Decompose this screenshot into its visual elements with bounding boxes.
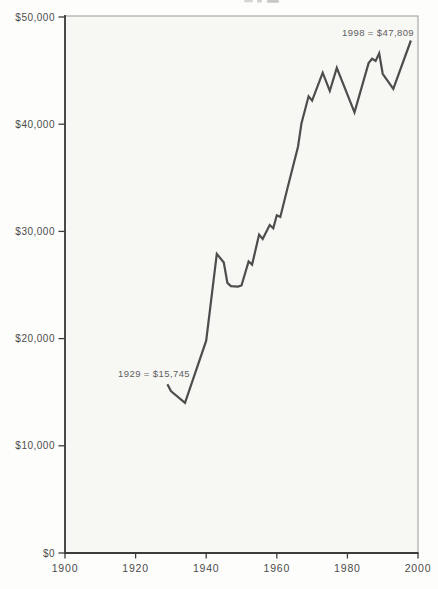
annotation-1929: 1929 = $15,745 (118, 368, 190, 379)
y-tick-label: $40,000 (15, 119, 55, 130)
x-axis-ticks: 190019201940196019802000 (52, 553, 432, 574)
annotation-1998: 1998 = $47,809 (342, 27, 414, 38)
x-tick-label: 1920 (122, 562, 149, 574)
x-tick-label: 1900 (52, 562, 79, 574)
x-tick-label: 1980 (334, 562, 361, 574)
y-tick-label: $30,000 (15, 226, 55, 237)
x-tick-label: 1960 (264, 562, 291, 574)
y-axis-ticks: $0$10,000$20,000$30,000$40,000$50,000 (15, 12, 65, 559)
y-tick-label: $20,000 (15, 333, 55, 344)
cropped-title-fragment (244, 0, 279, 3)
y-tick-label: $50,000 (15, 12, 55, 23)
y-tick-label: $0 (43, 548, 55, 559)
x-tick-label: 2000 (405, 562, 432, 574)
y-tick-label: $10,000 (15, 440, 55, 451)
income-line-chart-figure: $0$10,000$20,000$30,000$40,000$50,000 19… (0, 0, 438, 589)
x-tick-label: 1940 (193, 562, 220, 574)
chart-canvas: $0$10,000$20,000$30,000$40,000$50,000 19… (0, 0, 438, 589)
